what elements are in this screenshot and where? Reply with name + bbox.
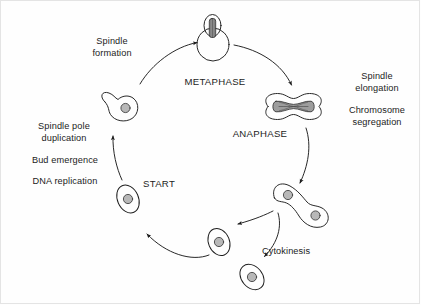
label-chromosome-segregation: Chromosome segregation	[334, 105, 420, 128]
anaphase-cell	[266, 94, 322, 120]
daughter-cell-lower	[235, 260, 269, 295]
budded-cell	[102, 92, 138, 121]
label-spindle-formation: Spindle formation	[72, 36, 152, 59]
label-dna-replication: DNA replication	[19, 176, 111, 188]
label-start: START	[143, 178, 193, 190]
start-cell	[113, 181, 144, 216]
arrow-pair-to-daughter-upper	[238, 211, 273, 224]
label-spindle-elongation: Spindle elongation	[337, 71, 417, 94]
label-spindle-pole-duplication: Spindle pole duplication	[18, 121, 110, 144]
label-anaphase: ANAPHASE	[220, 128, 300, 140]
diagram-canvas	[0, 0, 421, 305]
metaphase-cell	[197, 15, 229, 62]
cytokinesis-pair	[273, 184, 328, 227]
arrow-daughter-to-start	[147, 234, 209, 257]
label-cytokinesis: Cytokinesis	[262, 246, 342, 258]
arrow-start-to-budded	[113, 136, 122, 180]
metaphase-spindle	[209, 19, 215, 38]
daughter-cell-upper	[204, 225, 234, 259]
arrow-anaphase-to-cytokinesis	[300, 128, 309, 183]
cell-cycle-diagram: Spindle formation METAPHASE Spindle elon…	[0, 0, 421, 305]
anaphase-spindle	[273, 101, 314, 112]
label-metaphase: METAPHASE	[175, 76, 255, 88]
label-bud-emergence: Bud emergence	[19, 155, 111, 167]
